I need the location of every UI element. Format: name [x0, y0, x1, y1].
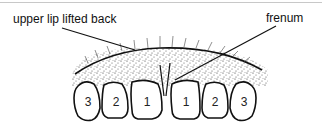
- teeth-diagram: 3 2 1 1 2 3: [0, 0, 322, 131]
- tooth-number: 2: [113, 95, 120, 109]
- tooth-number: 1: [144, 95, 151, 109]
- tooth-number: 2: [212, 95, 219, 109]
- upper-lip-leader: [62, 28, 135, 50]
- tooth-number: 3: [241, 95, 248, 109]
- tooth-number: 3: [85, 95, 92, 109]
- tooth-number: 1: [183, 95, 190, 109]
